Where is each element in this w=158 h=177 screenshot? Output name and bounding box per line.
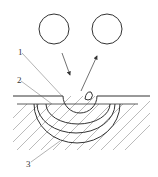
erosion-diagram: 1 2 3 xyxy=(0,0,158,177)
leader-line-2 xyxy=(21,81,52,104)
rebound-arrow xyxy=(81,56,97,91)
ejected-fragment xyxy=(85,92,93,100)
incident-arrow xyxy=(62,53,70,75)
rebound-particle-circle xyxy=(92,14,122,44)
incoming-particle-circle xyxy=(39,14,69,44)
deformation-arc-inner xyxy=(46,104,110,124)
label-3: 3 xyxy=(26,159,31,169)
leader-line-1 xyxy=(22,53,63,97)
label-2: 2 xyxy=(17,75,22,85)
label-1: 1 xyxy=(18,47,23,57)
